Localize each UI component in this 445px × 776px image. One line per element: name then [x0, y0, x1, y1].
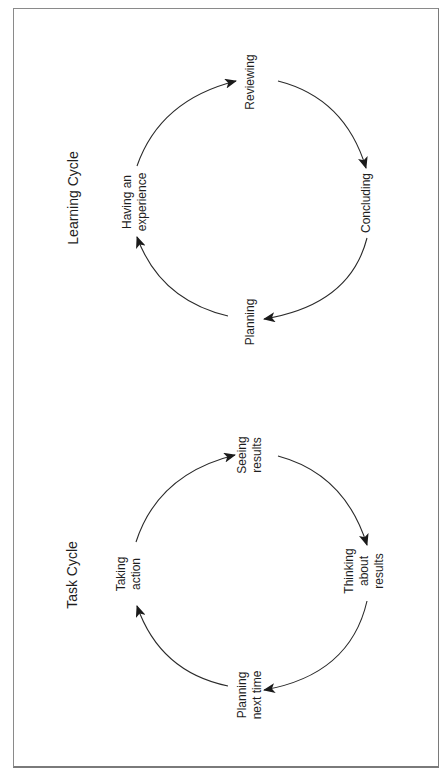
task-cycle-arrows: [136, 455, 367, 690]
stage-label-line-2: experience: [135, 173, 150, 232]
cycle-arrows: [0, 0, 445, 776]
learning-cycle-title: Learning Cycle: [65, 151, 81, 244]
stage-planning-next-time: Planning next time: [235, 671, 265, 720]
stage-having-an-experience: Having an experience: [120, 173, 150, 232]
stage-reviewing: Reviewing: [243, 54, 258, 109]
learning-cycle-arrows: [137, 81, 367, 319]
arrow-thinking-to-planning: [264, 601, 367, 690]
stage-thinking-about-results: Thinking about results: [342, 548, 387, 593]
task-cycle-title: Task Cycle: [64, 541, 80, 609]
arrow-concluding-to-planning: [264, 238, 367, 319]
stage-label-line-2: action: [129, 557, 144, 592]
stage-label-line-2: results: [250, 436, 265, 473]
arrow-planning-to-action: [137, 606, 228, 686]
stage-planning: Planning: [243, 299, 258, 346]
stage-label-line-3: results: [372, 548, 387, 593]
arrow-reviewing-to-concluding: [278, 81, 366, 168]
stage-label: Concluding: [359, 173, 374, 233]
stage-label-line-1: Taking: [114, 557, 129, 592]
stage-label-line-1: Thinking: [342, 548, 357, 593]
arrow-results-to-thinking: [278, 456, 367, 545]
stage-concluding: Concluding: [359, 173, 374, 233]
arrow-action-to-results: [136, 455, 235, 542]
stage-label-line-1: Having an: [120, 173, 135, 232]
stage-seeing-results: Seeing results: [235, 436, 265, 473]
stage-label-line-2: about: [357, 548, 372, 593]
stage-label-line-1: Seeing: [235, 436, 250, 473]
stage-label: Planning: [243, 299, 258, 346]
arrow-experience-to-reviewing: [137, 81, 236, 166]
stage-label-line-1: Planning: [235, 671, 250, 720]
stage-label-line-2: next time: [250, 671, 265, 720]
stage-taking-action: Taking action: [114, 557, 144, 592]
arrow-planning-to-experience: [137, 237, 228, 316]
stage-label: Reviewing: [243, 54, 258, 109]
